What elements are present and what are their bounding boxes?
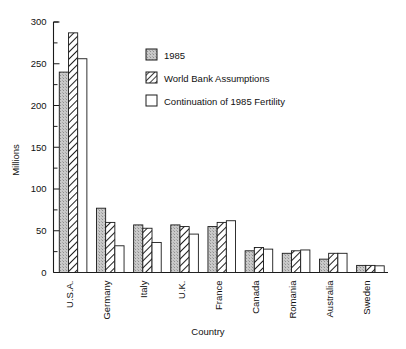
bar	[171, 225, 180, 273]
bar	[115, 246, 124, 273]
legend-label: World Bank Assumptions	[164, 73, 270, 84]
bar	[264, 249, 273, 272]
y-axis-title: Millions	[10, 144, 21, 176]
x-axis-title: Country	[191, 326, 225, 337]
hatched-swatch	[146, 72, 157, 83]
bar	[366, 265, 375, 272]
bar	[152, 242, 161, 272]
white-swatch	[146, 95, 157, 106]
chart-canvas: 050100150200250300 Millions U.S.A.German…	[0, 0, 406, 349]
category-label: France	[213, 281, 224, 311]
y-tick-label: 0	[41, 267, 46, 278]
category-label: Italy	[138, 280, 149, 298]
bar	[106, 222, 115, 272]
y-tick-label: 200	[31, 100, 47, 111]
bar	[180, 227, 189, 273]
bar	[375, 266, 384, 273]
bar	[282, 253, 291, 272]
bar	[301, 250, 310, 273]
category-label: U.K.	[176, 281, 187, 299]
category-label: U.S.A.	[64, 281, 75, 308]
legend-label: Continuation of 1985 Fertility	[164, 96, 285, 107]
solid-gray-swatch	[146, 49, 157, 60]
bar	[96, 208, 105, 272]
bar	[254, 247, 263, 272]
category-label: Sweden	[361, 281, 372, 315]
bar	[291, 251, 300, 273]
bar	[189, 234, 198, 272]
bar	[226, 221, 235, 273]
legend-label: 1985	[164, 50, 185, 61]
y-tick-label: 150	[31, 142, 47, 153]
category-label: Canada	[250, 280, 261, 314]
y-tick-label: 250	[31, 58, 47, 69]
bar	[357, 265, 366, 272]
bar	[59, 72, 68, 272]
y-tick-label: 100	[31, 183, 47, 194]
bar	[217, 222, 226, 272]
bar	[319, 259, 328, 272]
category-label: Australia	[324, 280, 335, 318]
bar	[143, 228, 152, 272]
bar	[208, 227, 217, 273]
bar-chart: 050100150200250300 Millions U.S.A.German…	[0, 0, 406, 349]
category-label: Romania	[287, 280, 298, 319]
y-tick-label: 50	[36, 225, 47, 236]
bar	[78, 59, 87, 273]
bar	[68, 33, 77, 273]
y-tick-label: 300	[31, 16, 47, 27]
bar	[329, 253, 338, 272]
category-label: Germany	[101, 280, 112, 319]
bar	[134, 225, 143, 273]
bar	[338, 253, 347, 272]
bar	[245, 251, 254, 273]
